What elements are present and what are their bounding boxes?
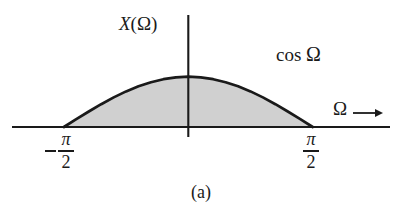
x-axis-label: Ω [333, 99, 383, 118]
x-tick-label-pi-over-2: π 2 [303, 130, 319, 171]
fraction-pi-over-2: π 2 [58, 130, 74, 171]
y-axis-label: X(Ω) [119, 14, 157, 33]
fraction-numerator: π [304, 130, 317, 149]
x-axis-label-symbol: Ω [333, 99, 347, 118]
arrow-right-icon [353, 103, 383, 115]
figure-caption: (a) [0, 182, 402, 203]
curve-label-text: cos [276, 44, 301, 65]
curve-label: cos Ω [276, 44, 321, 64]
y-axis-label-symbol: X [119, 13, 131, 34]
y-axis-label-arg: (Ω) [131, 13, 158, 34]
fraction-denominator: 2 [305, 153, 318, 172]
x-tick-label-negative-pi-over-2: π 2 [45, 130, 74, 171]
figure-container: X(Ω) cos Ω Ω π 2 π 2 (a) [0, 0, 402, 214]
fraction-numerator: π [59, 130, 72, 149]
fraction-pi-over-2: π 2 [303, 130, 319, 171]
fraction-denominator: 2 [60, 153, 73, 172]
minus-sign-icon [45, 150, 56, 152]
curve-label-omega-symbol: Ω [306, 43, 321, 65]
